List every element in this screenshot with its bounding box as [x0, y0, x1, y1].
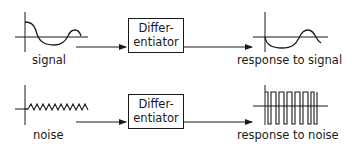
response-to-noise-label: response to noise — [237, 130, 339, 142]
block-line-1: Differ- — [138, 22, 173, 36]
noise-input-graph — [15, 85, 88, 125]
signal-label: signal — [32, 55, 66, 67]
response-signal-waveform — [265, 30, 321, 48]
response-noise-waveform — [265, 92, 317, 124]
noise-waveform — [25, 104, 88, 110]
noise-label: noise — [33, 130, 64, 142]
signal-input-graph — [15, 12, 88, 52]
block-line-2: entiator — [133, 36, 178, 50]
differentiator-block-signal: Differ- entiator — [128, 18, 184, 53]
differentiator-block-noise: Differ- entiator — [128, 94, 184, 129]
response-signal-graph — [253, 12, 328, 52]
signal-waveform — [25, 22, 81, 45]
block-line-1: Differ- — [138, 98, 173, 112]
response-noise-graph — [253, 85, 328, 125]
block-line-2: entiator — [133, 112, 178, 126]
response-to-signal-label: response to signal — [237, 55, 342, 67]
